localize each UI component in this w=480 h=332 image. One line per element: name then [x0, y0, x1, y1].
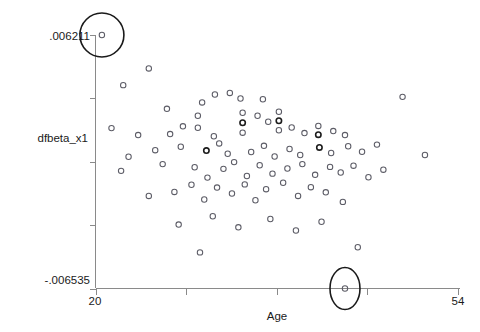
data-point [340, 199, 345, 204]
data-point [276, 118, 281, 123]
data-point [178, 144, 183, 149]
data-point [210, 214, 215, 219]
data-point [160, 161, 165, 166]
y-axis-tick-label-min: -.006535 [45, 274, 90, 286]
data-point [180, 124, 185, 129]
data-point [126, 154, 131, 159]
data-point [266, 119, 271, 124]
y-axis-ticks [90, 36, 96, 290]
data-point [345, 144, 350, 149]
data-point [295, 193, 300, 198]
data-point [172, 189, 177, 194]
data-point [242, 182, 247, 187]
data-point [229, 191, 234, 196]
data-point [244, 173, 249, 178]
data-point [118, 168, 123, 173]
data-point [338, 170, 343, 175]
data-point [316, 132, 321, 137]
data-point [99, 32, 104, 37]
data-point [248, 149, 253, 154]
data-point [231, 159, 236, 164]
data-point [153, 147, 158, 152]
data-point [268, 216, 273, 221]
data-point [287, 146, 292, 151]
x-axis-label: Age [267, 310, 287, 322]
data-point [146, 66, 151, 71]
data-point [240, 110, 245, 115]
data-point [240, 130, 245, 135]
data-point [214, 185, 219, 190]
plot-canvas: .006211 -.006535 dfbeta_x1 20 54 Age [0, 0, 480, 332]
data-point [323, 190, 328, 195]
outlier-annotations [80, 13, 360, 310]
data-point [374, 142, 379, 147]
x-axis-tick-label-max: 54 [452, 295, 465, 307]
data-points [99, 32, 427, 291]
data-point [272, 154, 277, 159]
data-point [317, 145, 322, 150]
data-point [212, 92, 217, 97]
data-point [300, 161, 305, 166]
data-point [298, 152, 303, 157]
y-axis-tick-label-max: .006211 [49, 30, 90, 42]
scatter-plot-figure: .006211 -.006535 dfbeta_x1 20 54 Age [0, 0, 480, 332]
data-point [192, 165, 197, 170]
data-point [312, 172, 317, 177]
data-point [255, 113, 260, 118]
data-point [195, 113, 200, 118]
data-point [240, 120, 245, 125]
data-point [328, 150, 333, 155]
data-point [227, 90, 232, 95]
data-point [164, 106, 169, 111]
data-point [167, 131, 172, 136]
data-point [270, 171, 275, 176]
data-point [331, 128, 336, 133]
data-point [293, 228, 298, 233]
data-point [289, 125, 294, 130]
data-point [285, 166, 290, 171]
data-point [327, 164, 332, 169]
data-point [238, 96, 243, 101]
data-point [319, 219, 324, 224]
data-point [189, 182, 194, 187]
data-point [121, 82, 126, 87]
data-point [146, 193, 151, 198]
data-point [211, 134, 216, 139]
data-point [199, 100, 204, 105]
data-point [316, 123, 321, 128]
data-point [257, 163, 262, 168]
y-axis-label: dfbeta_x1 [37, 132, 88, 144]
data-point [221, 166, 226, 171]
axes [96, 35, 461, 289]
data-point [359, 149, 364, 154]
data-point [381, 167, 386, 172]
data-point [263, 186, 268, 191]
data-point [204, 148, 209, 153]
x-axis-tick-label-min: 20 [89, 295, 102, 307]
data-point [253, 198, 258, 203]
x-axis-ticks [97, 289, 459, 295]
data-point [195, 125, 200, 130]
data-point [261, 143, 266, 148]
data-point [176, 222, 181, 227]
data-point [225, 151, 230, 156]
data-point [366, 175, 371, 180]
data-point [351, 163, 356, 168]
data-point [355, 245, 360, 250]
data-point [109, 125, 114, 130]
data-point [236, 225, 241, 230]
data-point [202, 197, 207, 202]
data-point [400, 94, 405, 99]
data-point [205, 175, 210, 180]
data-point [197, 250, 202, 255]
data-point [216, 141, 221, 146]
data-point [302, 130, 307, 135]
data-point [276, 109, 281, 114]
data-point [308, 184, 313, 189]
data-point [276, 128, 281, 133]
data-point [280, 180, 285, 185]
data-point [422, 152, 427, 157]
data-point [260, 97, 265, 102]
data-point [342, 132, 347, 137]
data-point [135, 132, 140, 137]
